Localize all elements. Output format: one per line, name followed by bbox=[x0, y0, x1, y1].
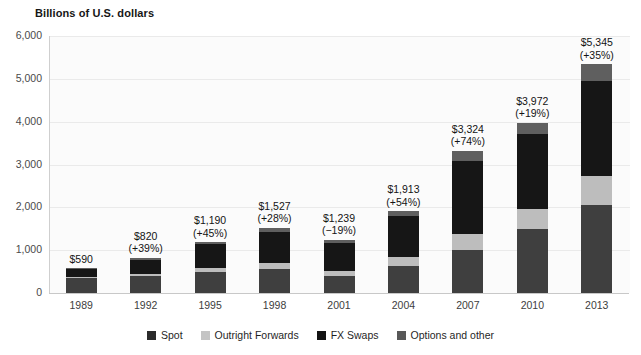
bar-total-value: $1,190 bbox=[180, 214, 240, 227]
bar-group[interactable] bbox=[195, 36, 226, 293]
bar-change-percent: (+35%) bbox=[567, 49, 627, 62]
bar-change-percent: (+39%) bbox=[116, 242, 176, 255]
bar-value-label: $820(+39%) bbox=[116, 230, 176, 255]
legend-label: FX Swaps bbox=[331, 329, 379, 341]
y-axis-tick-label: 6,000 bbox=[0, 29, 42, 41]
chart-legend: SpotOutright ForwardsFX SwapsOptions and… bbox=[0, 329, 641, 341]
bar-stack bbox=[388, 211, 419, 293]
bar-segment[interactable] bbox=[581, 64, 612, 81]
bar-change-percent: (−19%) bbox=[309, 224, 369, 237]
x-axis-tick-label: 1989 bbox=[56, 299, 106, 311]
y-axis-tick-label: 4,000 bbox=[0, 115, 42, 127]
bar-value-label: $5,345(+35%) bbox=[567, 36, 627, 61]
x-axis-tick-label: 2001 bbox=[314, 299, 364, 311]
bar-change-percent: (+74%) bbox=[438, 135, 498, 148]
y-axis-tick-label: 5,000 bbox=[0, 72, 42, 84]
legend-label: Outright Forwards bbox=[215, 329, 299, 341]
bar-stack bbox=[259, 228, 290, 293]
bar-segment[interactable] bbox=[517, 209, 548, 229]
bar-value-label: $1,527(+28%) bbox=[245, 200, 305, 225]
bar-change-percent: (+28%) bbox=[245, 212, 305, 225]
bar-segment[interactable] bbox=[581, 81, 612, 176]
bar-segment[interactable] bbox=[66, 269, 97, 277]
bar-stack bbox=[66, 268, 97, 293]
bar-total-value: $1,913 bbox=[373, 183, 433, 196]
bar-segment[interactable] bbox=[452, 234, 483, 250]
bar-total-value: $3,324 bbox=[438, 123, 498, 136]
bar-segment[interactable] bbox=[324, 243, 355, 271]
bar-stack bbox=[452, 151, 483, 293]
legend-item[interactable]: Outright Forwards bbox=[201, 329, 299, 341]
bar-segment[interactable] bbox=[517, 134, 548, 209]
bar-segment[interactable] bbox=[581, 176, 612, 205]
bar-segment[interactable] bbox=[259, 269, 290, 293]
bar-stack bbox=[581, 64, 612, 293]
bar-total-value: $5,345 bbox=[567, 36, 627, 49]
bar-total-value: $590 bbox=[51, 253, 111, 266]
bar-segment[interactable] bbox=[195, 272, 226, 293]
bar-segment[interactable] bbox=[581, 205, 612, 293]
bar-stack bbox=[324, 240, 355, 293]
legend-item[interactable]: Options and other bbox=[397, 329, 494, 341]
legend-swatch-icon bbox=[397, 331, 406, 340]
bar-segment[interactable] bbox=[324, 276, 355, 293]
bar-change-percent: (+45%) bbox=[180, 227, 240, 240]
legend-label: Options and other bbox=[411, 329, 494, 341]
bar-segment[interactable] bbox=[388, 266, 419, 293]
bar-segment[interactable] bbox=[195, 244, 226, 267]
bar-group[interactable] bbox=[324, 36, 355, 293]
x-axis-tick-label: 1998 bbox=[250, 299, 300, 311]
y-axis-tick-label: 0 bbox=[0, 286, 42, 298]
bar-segment[interactable] bbox=[130, 260, 161, 274]
chart-title: Billions of U.S. dollars bbox=[35, 7, 154, 19]
x-axis-tick-label: 2013 bbox=[572, 299, 622, 311]
stacked-bar-chart: Billions of U.S. dollars 6,0005,0004,000… bbox=[0, 0, 641, 355]
legend-label: Spot bbox=[161, 329, 183, 341]
bar-value-label: $590 bbox=[51, 253, 111, 266]
bar-stack bbox=[195, 242, 226, 293]
x-axis-tick-label: 1992 bbox=[121, 299, 171, 311]
bar-total-value: $1,527 bbox=[245, 200, 305, 213]
y-axis-tick-label: 1,000 bbox=[0, 243, 42, 255]
bar-segment[interactable] bbox=[388, 257, 419, 266]
bar-total-value: $820 bbox=[116, 230, 176, 243]
bar-value-label: $3,972(+19%) bbox=[502, 95, 562, 120]
bar-total-value: $3,972 bbox=[502, 95, 562, 108]
bar-segment[interactable] bbox=[66, 278, 97, 293]
bar-segment[interactable] bbox=[130, 276, 161, 293]
bar-stack bbox=[517, 123, 548, 293]
x-axis-tick-label: 1995 bbox=[185, 299, 235, 311]
y-axis-tick-label: 2,000 bbox=[0, 200, 42, 212]
bar-change-percent: (+54%) bbox=[373, 196, 433, 209]
bar-segment[interactable] bbox=[517, 229, 548, 293]
bar-segment[interactable] bbox=[259, 232, 290, 263]
bar-group[interactable] bbox=[581, 36, 612, 293]
bar-segment[interactable] bbox=[452, 161, 483, 234]
bar-group[interactable] bbox=[452, 36, 483, 293]
bar-value-label: $1,239(−19%) bbox=[309, 212, 369, 237]
bar-group[interactable] bbox=[517, 36, 548, 293]
bar-segment[interactable] bbox=[388, 216, 419, 257]
bar-value-label: $1,190(+45%) bbox=[180, 214, 240, 239]
x-axis-tick-label: 2010 bbox=[507, 299, 557, 311]
bar-stack bbox=[130, 258, 161, 293]
legend-swatch-icon bbox=[201, 331, 210, 340]
bar-total-value: $1,239 bbox=[309, 212, 369, 225]
bar-segment[interactable] bbox=[517, 123, 548, 134]
y-axis-tick-label: 3,000 bbox=[0, 158, 42, 170]
bar-value-label: $1,913(+54%) bbox=[373, 183, 433, 208]
bar-group[interactable] bbox=[259, 36, 290, 293]
legend-swatch-icon bbox=[317, 331, 326, 340]
bar-group[interactable] bbox=[388, 36, 419, 293]
legend-item[interactable]: Spot bbox=[147, 329, 183, 341]
bar-value-label: $3,324(+74%) bbox=[438, 123, 498, 148]
bar-segment[interactable] bbox=[452, 151, 483, 161]
bar-segment[interactable] bbox=[452, 250, 483, 293]
x-axis-tick-label: 2007 bbox=[443, 299, 493, 311]
x-axis-tick-label: 2004 bbox=[378, 299, 428, 311]
legend-item[interactable]: FX Swaps bbox=[317, 329, 379, 341]
x-axis-line bbox=[49, 293, 629, 294]
bar-change-percent: (+19%) bbox=[502, 107, 562, 120]
legend-swatch-icon bbox=[147, 331, 156, 340]
